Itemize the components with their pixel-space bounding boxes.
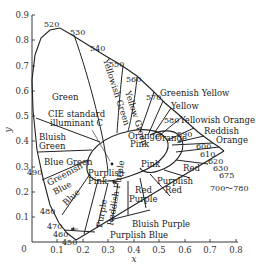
y-axis-label: y — [3, 127, 13, 134]
wl-570: 570 — [146, 93, 161, 102]
wl-540: 540 — [90, 44, 105, 53]
wl-450: 450 — [62, 238, 77, 247]
region-green: Green — [52, 92, 79, 102]
wl-490: 490 — [27, 168, 42, 177]
wl-480: 480 — [40, 207, 55, 216]
x-tick: 0.8 — [229, 245, 243, 255]
y-tick: 0.1 — [15, 212, 29, 222]
cie-chromaticity-diagram: 0.9 0.8 0.7 0.6 0.5 0.4 0.3 0.2 0.1 0 0.… — [0, 0, 261, 271]
region-pink: Pink — [141, 159, 161, 169]
region-purplish-pink: Pink — [88, 176, 108, 186]
illuminant-c-point — [111, 163, 114, 166]
x-tick: 0.7 — [203, 245, 217, 255]
region-purplish-red: Red — [165, 185, 182, 195]
x-tick: 0.6 — [178, 245, 192, 255]
x-axis-label: x — [131, 254, 136, 264]
illuminant-label: illuminant C — [50, 118, 103, 128]
x-tick: 0.5 — [152, 245, 166, 255]
region-yellowish-orange: Yellowish Orange — [179, 115, 255, 125]
y-tick: 0.2 — [15, 187, 29, 197]
region-orange-pink: Pink — [130, 139, 150, 149]
x-tick: 0.2 — [76, 245, 90, 255]
wl-560: 560 — [126, 75, 141, 84]
wl-520: 520 — [44, 20, 59, 29]
region-bluish-green: Green — [39, 141, 66, 151]
y-tick: 0.9 — [15, 10, 29, 20]
wl-580: 580 — [164, 116, 179, 125]
region-red: Red — [183, 163, 200, 173]
region-blue-green: Blue Green — [44, 157, 93, 167]
region-bluish-purple: Bluish Purple — [132, 219, 190, 229]
region-labels: Green CIE standard illuminant C Yellowis… — [39, 57, 255, 240]
x-tick: 0.3 — [101, 245, 115, 255]
y-tick: 0.6 — [15, 86, 29, 96]
region-purplish-blue: Purplish Blue — [110, 230, 168, 240]
y-tick: 0.4 — [15, 136, 29, 146]
y-tick: 0.8 — [15, 35, 29, 45]
wl-675: 675 — [219, 171, 234, 180]
origin-label: 0 — [21, 244, 26, 254]
region-reddish-orange: Orange — [216, 135, 248, 145]
wl-700-780: 700～780 — [210, 184, 249, 193]
y-tick: 0.7 — [15, 61, 29, 71]
wl-530: 530 — [70, 28, 85, 37]
region-red-purple: Purple — [129, 194, 157, 204]
y-tick: 0.5 — [15, 111, 29, 121]
illuminant-pointer — [92, 130, 110, 161]
region-yellow: Yellow — [170, 101, 199, 111]
region-greenish-yellow: Greenish Yellow — [160, 88, 230, 98]
